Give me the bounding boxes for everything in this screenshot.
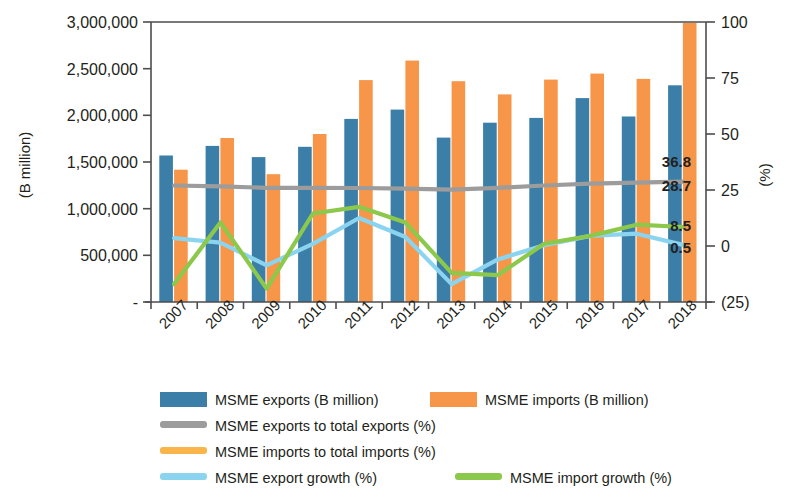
legend-swatch-line xyxy=(455,473,502,480)
y-tick-label-right: 0 xyxy=(721,238,730,255)
y-axis-title-right: (%) xyxy=(756,163,773,186)
y-tick-label-left: 500,000 xyxy=(80,247,138,264)
legend-item-3: MSME imports to total imports (%) xyxy=(160,444,436,460)
line-msme-import-growth xyxy=(174,207,683,289)
bar-exports-2017 xyxy=(622,117,636,303)
bar-imports-2008 xyxy=(220,138,234,302)
bar-imports-2015 xyxy=(544,80,558,302)
y-tick-label-left: 2,000,000 xyxy=(67,107,138,124)
legend-label: MSME exports (B million) xyxy=(215,392,379,408)
legend-label: MSME export growth (%) xyxy=(215,470,377,486)
legend-item-1: MSME imports (B million) xyxy=(430,392,649,408)
line-msme-export-growth xyxy=(174,218,683,284)
plot-area xyxy=(159,23,696,302)
data-label-8.5: 8.5 xyxy=(670,217,691,234)
legend-item-2: MSME exports to total exports (%) xyxy=(160,418,436,434)
data-label-0.5: 0.5 xyxy=(670,239,691,256)
y-tick-label-right: (25) xyxy=(721,294,749,311)
y-tick-label-left: 1,000,000 xyxy=(67,201,138,218)
chart-legend: MSME exports (B million)MSME imports (B … xyxy=(160,392,672,486)
legend-label: MSME exports to total exports (%) xyxy=(215,418,436,434)
bar-imports-2012 xyxy=(405,61,419,302)
bar-imports-2016 xyxy=(590,74,604,302)
y-tick-label-right: 50 xyxy=(721,126,739,143)
y-tick-label-left: 3,000,000 xyxy=(67,14,138,31)
legend-item-4: MSME export growth (%) xyxy=(160,470,377,486)
msme-trade-chart: -500,0001,000,0001,500,0002,000,0002,500… xyxy=(0,0,786,498)
y-axis-title-left: (B million) xyxy=(16,132,33,199)
bar-imports-2017 xyxy=(637,79,651,302)
legend-swatch-line xyxy=(160,473,207,480)
legend-label: MSME imports to total imports (%) xyxy=(215,444,436,460)
legend-item-0: MSME exports (B million) xyxy=(160,392,379,408)
bar-exports-2007 xyxy=(159,156,173,303)
legend-label: MSME import growth (%) xyxy=(510,470,672,486)
y-tick-label-left: 1,500,000 xyxy=(67,154,138,171)
bar-exports-2015 xyxy=(529,118,543,302)
y-tick-label-left: - xyxy=(133,294,138,311)
legend-swatch-bar xyxy=(160,392,207,407)
y-tick-label-left: 2,500,000 xyxy=(67,61,138,78)
legend-swatch-line xyxy=(160,447,207,454)
bar-exports-2016 xyxy=(576,98,590,302)
legend-swatch-line xyxy=(160,421,207,428)
legend-label: MSME imports (B million) xyxy=(485,392,649,408)
y-tick-label-right: 100 xyxy=(721,14,748,31)
line-msme-exports-to-total-exports xyxy=(174,182,683,190)
legend-swatch-bar xyxy=(430,392,477,407)
y-tick-label-right: 75 xyxy=(721,70,739,87)
data-label-28.7: 28.7 xyxy=(662,177,691,194)
y-tick-label-right: 25 xyxy=(721,182,739,199)
data-label-36.8: 36.8 xyxy=(662,153,691,170)
bar-imports-2011 xyxy=(359,80,373,302)
bar-exports-2012 xyxy=(391,110,405,302)
bar-imports-2010 xyxy=(313,134,327,302)
legend-item-5: MSME import growth (%) xyxy=(455,470,672,486)
